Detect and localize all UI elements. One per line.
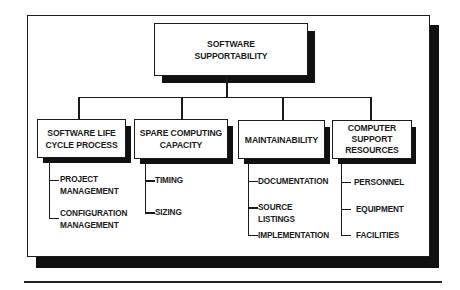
item-equipment: EQUIPMENT [356,204,404,216]
item-line: SOURCE [258,202,295,214]
root-connector [226,76,228,98]
category-2-tick-2 [145,212,155,214]
item-line: PROJECT [60,174,119,186]
category-1-branch-line [49,163,51,219]
item-line: LISTINGS [258,214,295,226]
item-implementation: IMPLEMENTATION [258,230,329,242]
root-node-software-supportability: SOFTWARE SUPPORTABILITY [154,23,308,76]
item-configuration-management: CONFIGURATION MANAGEMENT [60,208,127,231]
category-1-tick-2 [49,218,59,220]
item-line: MANAGEMENT [60,220,127,232]
item-sizing: SIZING [155,207,182,219]
category-2-tick-1 [145,180,155,182]
category-4-branch-line [341,164,343,236]
item-source-listings: SOURCE LISTINGS [258,202,295,225]
bottom-rule [24,281,442,283]
category-1-title-line-1: SOFTWARE LIFE [45,127,117,139]
category-maintainability: MAINTAINABILITY [238,120,325,159]
item-documentation: DOCUMENTATION [258,176,328,188]
category-spare-computing-capacity: SPARE COMPUTING CAPACITY [134,119,228,159]
category-4-title-line-1: COMPUTER [345,123,399,134]
root-title-line-2: SUPPORTABILITY [195,50,268,62]
drop-line-3 [282,97,284,120]
item-personnel: PERSONNEL [354,177,404,189]
category-3-branch-line [248,164,250,236]
item-facilities: FACILITIES [356,230,399,242]
category-3-tick-2 [248,207,258,209]
category-2-branch-line [145,164,147,213]
category-1-title-line-2: CYCLE PROCESS [45,139,117,151]
category-software-life-cycle-process: SOFTWARE LIFE CYCLE PROCESS [37,119,126,158]
category-1-tick-1 [49,180,59,182]
item-project-management: PROJECT MANAGEMENT [60,174,119,197]
category-3-tick-3 [248,235,258,237]
category-2-title-line-1: SPARE COMPUTING [140,127,222,139]
category-4-tick-3 [341,235,351,237]
drop-line-2 [181,97,183,119]
drop-line-4 [370,97,372,120]
horizontal-bus [78,97,371,99]
drop-line-1 [78,97,80,119]
item-line: MANAGEMENT [60,186,119,198]
category-computer-support-resources: COMPUTER SUPPORT RESOURCES [332,120,412,159]
category-2-title-line-2: CAPACITY [140,139,222,151]
category-4-title-line-3: RESOURCES [345,145,399,156]
category-4-tick-2 [341,209,351,211]
category-3-tick-1 [248,181,258,183]
category-4-title-line-2: SUPPORT [345,134,399,145]
item-timing: TIMING [155,175,183,187]
category-3-title-line-1: MAINTAINABILITY [245,134,318,146]
root-title-line-1: SOFTWARE [195,38,268,50]
item-line: CONFIGURATION [60,208,127,220]
category-4-tick-1 [341,182,351,184]
